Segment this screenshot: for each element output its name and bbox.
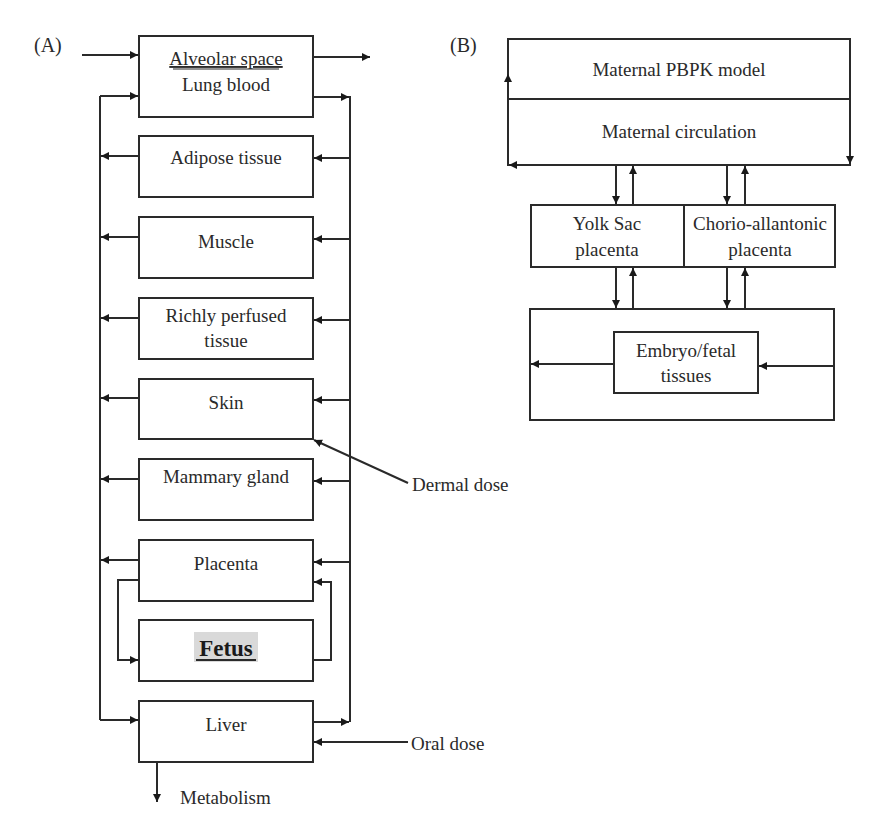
embryo-label-2: tissues <box>661 365 712 386</box>
liver-label: Liver <box>205 714 247 735</box>
fetus-compartment: Fetus <box>139 620 313 681</box>
panel-b-label: (B) <box>450 34 477 57</box>
alveolar-space-label: Alveolar space <box>169 48 282 69</box>
mammary-compartment: Mammary gland <box>139 459 313 520</box>
oral-dose-label: Oral dose <box>411 733 484 754</box>
lung-compartment: Alveolar space Lung blood <box>139 36 313 117</box>
embryo-label-1: Embryo/fetal <box>636 340 736 361</box>
fetus-label: Fetus <box>199 636 253 661</box>
maternal-model-box: Maternal PBPK model Maternal circulation <box>508 39 850 165</box>
liver-compartment: Liver <box>139 701 313 762</box>
muscle-label: Muscle <box>198 231 254 252</box>
yolk-sac-placenta-box: Yolk Sac placenta <box>531 205 684 267</box>
maternal-circulation-label: Maternal circulation <box>602 121 757 142</box>
muscle-compartment: Muscle <box>139 217 313 278</box>
yolk-sac-label-1: Yolk Sac <box>573 213 641 234</box>
richly-perfused-label-2: tissue <box>204 330 247 351</box>
richly-perfused-compartment: Richly perfused tissue <box>139 298 313 359</box>
lung-blood-label: Lung blood <box>182 74 271 95</box>
placenta-compartment: Placenta <box>139 540 313 601</box>
maternal-model-label: Maternal PBPK model <box>592 59 765 80</box>
mammary-label: Mammary gland <box>163 466 290 487</box>
metabolism-label: Metabolism <box>180 787 271 808</box>
adipose-compartment: Adipose tissue <box>139 136 313 197</box>
richly-perfused-label-1: Richly perfused <box>166 305 287 326</box>
dermal-dose-label: Dermal dose <box>412 474 509 495</box>
panel-a-label: (A) <box>34 34 62 57</box>
yolk-sac-label-2: placenta <box>575 239 639 260</box>
adipose-label: Adipose tissue <box>170 147 281 168</box>
dermal-dose-arrow-icon <box>314 440 408 483</box>
chorio-label-1: Chorio-allantonic <box>693 213 827 234</box>
chorio-allantonic-placenta-box: Chorio-allantonic placenta <box>684 205 835 267</box>
chorio-label-2: placenta <box>728 239 792 260</box>
placenta-to-fetus-arrow-icon <box>118 580 139 660</box>
panel-a: (A) Alveolar space Lung blood Adipose ti… <box>34 34 509 808</box>
fetus-to-placenta-arrow-icon <box>313 582 331 660</box>
panel-b: (B) Maternal PBPK model Maternal circula… <box>450 34 850 420</box>
skin-label: Skin <box>209 392 244 413</box>
skin-compartment: Skin <box>139 379 313 439</box>
placenta-label: Placenta <box>194 553 259 574</box>
